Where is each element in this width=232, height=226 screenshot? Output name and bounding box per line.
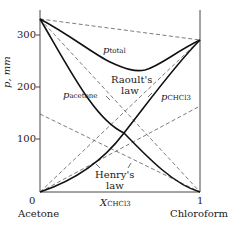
- henry-arrow-left: [96, 164, 100, 168]
- raoult-label-line1: Raoult's: [111, 75, 152, 85]
- y-tick-label-200: 200: [17, 82, 36, 92]
- x-tick-label-1: 1: [197, 196, 203, 206]
- p-total-label: ptotal: [103, 45, 126, 56]
- y-axis-label: p, mm: [2, 56, 12, 88]
- henry-arrow-right: [128, 163, 131, 168]
- raoult-total-line: [40, 19, 200, 40]
- y-tick-label-300: 300: [17, 30, 36, 40]
- p-chcl3-sub: CHCl3: [167, 94, 191, 102]
- x-axis-label-sub: CHCl3: [107, 200, 131, 208]
- acetone-label: Acetone: [18, 209, 59, 219]
- p-total-sub: total: [109, 47, 125, 55]
- x-tick-label-0: 0: [29, 196, 35, 206]
- chloroform-label: Chloroform: [170, 209, 228, 219]
- p-acetone-label: pacetone: [63, 90, 97, 101]
- raoult-label-line2: law: [121, 86, 139, 96]
- p-chcl3-label: pCHCl3: [161, 92, 191, 103]
- p-acetone-sub: acetone: [69, 92, 97, 100]
- raoult-arrow-left: [106, 96, 110, 100]
- henry-label-line2: law: [106, 181, 124, 191]
- henry-label-line1: Henry's: [95, 170, 134, 180]
- y-tick-label-100: 100: [17, 134, 36, 144]
- x-axis-label: XCHCl3: [100, 198, 131, 209]
